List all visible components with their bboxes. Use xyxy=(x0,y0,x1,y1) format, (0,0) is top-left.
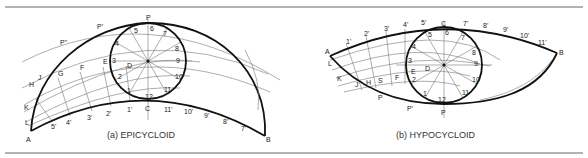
svg-text:3: 3 xyxy=(112,57,116,64)
label-c: C xyxy=(145,105,150,112)
label-j: J xyxy=(38,74,42,81)
label-e: E xyxy=(103,58,108,65)
svg-text:10: 10 xyxy=(175,73,183,80)
svg-text:8': 8' xyxy=(483,22,488,29)
svg-text:1': 1' xyxy=(127,106,132,113)
label-f: F xyxy=(395,74,399,81)
label-s: S xyxy=(378,77,383,84)
label-d: D xyxy=(425,65,430,72)
construction-arc xyxy=(480,60,552,100)
svg-text:11': 11' xyxy=(164,106,173,113)
label-a: A xyxy=(26,136,31,143)
svg-text:6: 6 xyxy=(445,29,449,36)
label-b: B xyxy=(266,136,271,143)
svg-text:9: 9 xyxy=(176,57,180,64)
radial-line xyxy=(80,72,92,111)
svg-text:11': 11' xyxy=(538,39,547,46)
svg-text:10': 10' xyxy=(520,32,529,39)
svg-text:7': 7' xyxy=(463,20,468,27)
svg-text:5': 5' xyxy=(421,19,426,26)
svg-text:2: 2 xyxy=(412,76,416,83)
svg-text:3: 3 xyxy=(408,57,412,64)
label-f: F xyxy=(80,64,84,71)
svg-text:8: 8 xyxy=(472,49,476,56)
svg-text:12: 12 xyxy=(438,96,446,103)
svg-text:4: 4 xyxy=(412,43,416,50)
label-l: L xyxy=(25,119,29,126)
center-dot xyxy=(147,60,150,63)
label-k: K xyxy=(24,104,29,111)
radial-line xyxy=(386,31,392,86)
svg-text:1: 1 xyxy=(127,87,131,94)
svg-text:5: 5 xyxy=(134,27,138,34)
svg-text:11: 11 xyxy=(462,89,469,96)
svg-text:4': 4' xyxy=(66,119,71,126)
svg-text:7: 7 xyxy=(163,30,167,37)
svg-text:7': 7' xyxy=(241,125,246,132)
construction-arc xyxy=(28,88,180,126)
svg-text:8': 8' xyxy=(223,118,228,125)
label-p1: P xyxy=(378,94,383,101)
svg-text:4: 4 xyxy=(115,40,119,47)
svg-text:11: 11 xyxy=(164,86,171,93)
svg-text:12: 12 xyxy=(145,93,153,100)
svg-text:2': 2' xyxy=(364,30,369,37)
caption-epicycloid: (a) EPICYCLOID xyxy=(107,130,176,140)
label-p: P xyxy=(441,109,446,116)
cycloid-figure: P P' P'' J H K L A B C D E F G 1 2 3 4 5… xyxy=(0,0,588,158)
svg-text:9: 9 xyxy=(474,60,478,67)
svg-text:3': 3' xyxy=(87,114,92,121)
svg-text:9': 9' xyxy=(204,112,209,119)
construction-arc xyxy=(24,60,200,112)
label-p: P xyxy=(146,14,151,21)
label-j: J xyxy=(355,81,359,88)
svg-text:8: 8 xyxy=(175,45,179,52)
label-b: B xyxy=(559,49,564,56)
svg-text:2: 2 xyxy=(118,73,122,80)
label-k: K xyxy=(337,75,342,82)
svg-text:5': 5' xyxy=(51,123,56,130)
hypocycloid-diagram: C P A B D E F S H J K L P P' 1 2 3 4 5 6… xyxy=(325,19,564,140)
svg-text:7: 7 xyxy=(461,34,465,41)
label-l: L xyxy=(328,60,332,67)
center-dot xyxy=(443,64,446,67)
label-g: G xyxy=(58,70,63,77)
label-e: E xyxy=(411,68,416,75)
label-d: D xyxy=(127,62,132,69)
svg-text:3': 3' xyxy=(384,25,389,32)
label-h: H xyxy=(366,79,371,86)
label-p2: P' xyxy=(407,105,413,112)
svg-text:1: 1 xyxy=(423,90,427,97)
label-c: C xyxy=(441,20,446,27)
svg-text:5: 5 xyxy=(428,31,432,38)
caption-hypocycloid: (b) HYPOCYCLOID xyxy=(396,130,476,140)
label-h: H xyxy=(29,81,34,88)
svg-text:10': 10' xyxy=(184,108,193,115)
svg-text:4': 4' xyxy=(403,21,408,28)
svg-text:2': 2' xyxy=(106,110,111,117)
svg-text:6: 6 xyxy=(150,25,154,32)
epicycloid-diagram: P P' P'' J H K L A B C D E F G 1 2 3 4 5… xyxy=(22,14,280,143)
label-p-double-prime: P'' xyxy=(60,39,67,46)
label-a: A xyxy=(325,48,330,55)
svg-text:10: 10 xyxy=(472,76,480,83)
svg-text:9': 9' xyxy=(503,26,508,33)
radial-line xyxy=(126,66,130,101)
label-p-prime: P' xyxy=(97,23,103,30)
svg-text:1': 1' xyxy=(346,38,351,45)
